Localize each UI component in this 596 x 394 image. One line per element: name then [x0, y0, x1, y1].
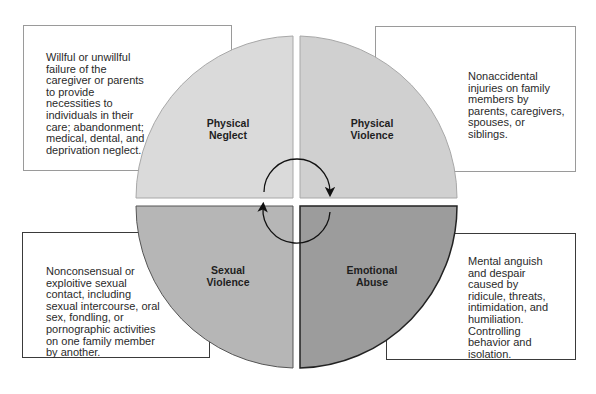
description-physical-neglect: Willful or unwillful failure of the care…: [46, 52, 150, 156]
label-line: Physical: [322, 117, 422, 129]
label-line: Violence: [322, 129, 422, 141]
label-line: Neglect: [178, 129, 278, 141]
label-emotional-abuse: Emotional Abuse: [322, 264, 422, 288]
description-physical-violence: Nonaccidental injuries on family members…: [468, 71, 566, 141]
label-sexual-violence: Sexual Violence: [178, 264, 278, 288]
description-emotional-abuse: Mental anguish and despair caused by rid…: [468, 256, 550, 360]
label-physical-neglect: Physical Neglect: [178, 117, 278, 141]
label-line: Emotional: [322, 264, 422, 276]
label-line: Abuse: [322, 276, 422, 288]
label-line: Violence: [178, 276, 278, 288]
description-sexual-violence: Nonconsensual or exploitive sexual conta…: [46, 266, 164, 359]
label-line: Physical: [178, 117, 278, 129]
label-physical-violence: Physical Violence: [322, 117, 422, 141]
label-line: Sexual: [178, 264, 278, 276]
